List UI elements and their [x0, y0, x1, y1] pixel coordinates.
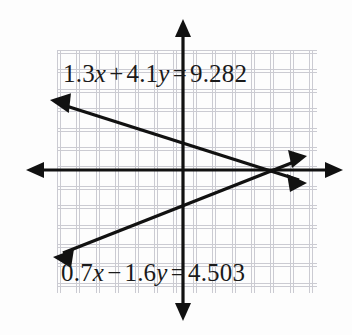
- equation-1-var-x: x: [95, 60, 106, 87]
- equation-2-var-x: x: [93, 259, 104, 286]
- equation-2-equals: =: [168, 259, 188, 286]
- equation-2-right-arrowhead: [288, 150, 307, 168]
- equation-2-label: 0.7x−1.6y=4.503: [61, 260, 245, 285]
- graph-figure: 1.3x+4.1y=9.282 0.7x−1.6y=4.503: [0, 0, 352, 335]
- equation-1-operator: +: [106, 60, 126, 87]
- y-axis-bottom-arrowhead: [175, 303, 191, 321]
- equation-1-var-y: y: [158, 60, 169, 87]
- equation-1-line: [50, 93, 307, 192]
- equation-1-constant: 9.282: [190, 60, 247, 87]
- equation-2-coef-x: 0.7: [61, 259, 93, 286]
- x-axis-left-arrowhead: [26, 162, 44, 178]
- x-axis-right-arrowhead: [325, 162, 343, 178]
- equation-1-coef-y: 4.1: [126, 60, 158, 87]
- equation-2-var-y: y: [156, 259, 167, 286]
- equation-2-operator: −: [104, 259, 124, 286]
- equation-2-constant: 4.503: [188, 259, 245, 286]
- equation-2-segment: [63, 160, 299, 253]
- equation-2-coef-y: 1.6: [124, 259, 156, 286]
- equation-1-coef-x: 1.3: [63, 60, 95, 87]
- equation-1-label: 1.3x+4.1y=9.282: [63, 61, 247, 86]
- equation-1-left-arrowhead: [50, 93, 76, 117]
- y-axis-top-arrowhead: [175, 19, 191, 37]
- equation-2-line: [53, 150, 307, 268]
- equation-1-right-arrowhead: [287, 174, 307, 192]
- equation-1-equals: =: [170, 60, 190, 87]
